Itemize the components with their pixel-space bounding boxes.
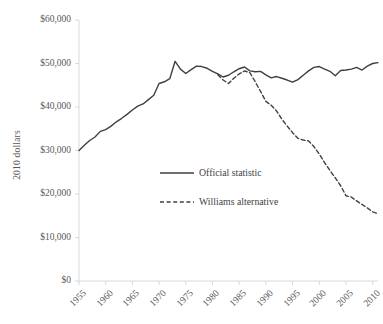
data-series-group	[79, 61, 378, 213]
y-axis-tick-label: $60,000	[0, 14, 71, 24]
y-axis-tick-label: $50,000	[0, 58, 71, 68]
legend-sample-lines	[160, 173, 194, 202]
y-axis-tick-label: $20,000	[0, 188, 71, 198]
series-line-official-statistic	[79, 61, 378, 150]
y-axis-tick-label: $40,000	[0, 101, 71, 111]
y-axis-tick-label: $0	[0, 275, 71, 285]
y-axis-tick-label: $10,000	[0, 232, 71, 242]
legend-label-williams: Williams alternative	[199, 196, 278, 207]
series-line-williams-alternative	[218, 71, 378, 214]
chart-figure: 2010 dollars $0$10,000$20,000$30,000$40,…	[0, 0, 383, 324]
y-axis-tick-label: $30,000	[0, 145, 71, 155]
axis-lines	[79, 20, 378, 281]
legend-label-official: Official statistic	[199, 167, 262, 178]
x-axis-ticks	[79, 281, 373, 285]
